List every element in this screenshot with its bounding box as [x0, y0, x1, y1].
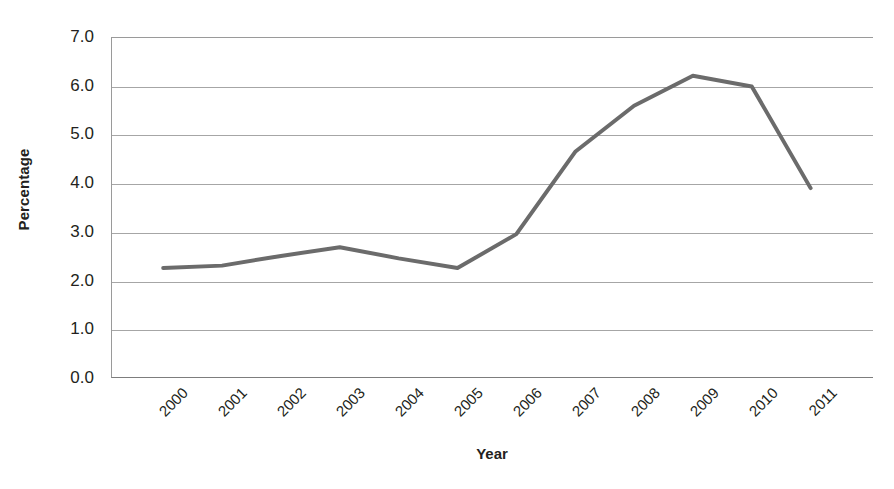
y-tick-label: 4.0 [70, 173, 94, 193]
y-axis-title-label: Percentage [16, 148, 33, 230]
y-tick-label: 1.0 [70, 319, 94, 339]
y-axis-title: Percentage [4, 0, 44, 378]
x-axis-tick-labels: 2000200120022003200420052006200720082009… [0, 378, 894, 438]
series-layer [112, 38, 873, 377]
y-tick-label: 5.0 [70, 124, 94, 144]
x-tick-label: 2002 [274, 384, 310, 420]
x-tick-label: 2009 [686, 384, 722, 420]
x-tick-label: 2003 [332, 384, 368, 420]
x-tick-label: 2004 [391, 384, 427, 420]
y-tick-label: 7.0 [70, 27, 94, 47]
y-tick-label: 3.0 [70, 222, 94, 242]
plot-area [111, 37, 873, 378]
x-tick-label: 2005 [450, 384, 486, 420]
series-line-percentage [163, 76, 810, 268]
x-tick-label: 2006 [509, 384, 545, 420]
x-tick-label: 2011 [805, 384, 840, 419]
x-axis-title: Year [111, 445, 873, 462]
x-tick-label: 2000 [156, 384, 192, 420]
x-tick-label: 2010 [745, 384, 781, 420]
x-tick-label: 2008 [627, 384, 663, 420]
line-chart: Percentage 7.06.05.04.03.02.01.00.0 2000… [0, 0, 894, 489]
x-tick-label: 2001 [215, 384, 251, 420]
x-tick-label: 2007 [568, 384, 604, 420]
y-tick-label: 2.0 [70, 271, 94, 291]
y-tick-label: 6.0 [70, 76, 94, 96]
